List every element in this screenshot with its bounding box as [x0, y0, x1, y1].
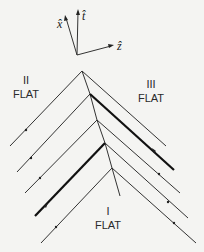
region-2-label: FLAT: [13, 88, 39, 100]
wavefront-4-right: [105, 143, 188, 218]
direction-markers: [25, 129, 175, 228]
marker-icon: [39, 177, 41, 179]
t-axis: [77, 12, 78, 55]
x-axis-label: x̂: [56, 17, 63, 31]
x-axis: [66, 18, 77, 55]
x-arrowhead-icon: [64, 15, 68, 21]
wavefront-3: [25, 120, 180, 193]
z-axis-label: ẑ: [116, 39, 122, 53]
region-1-label: FLAT: [95, 219, 121, 231]
region-3-label: FLAT: [138, 92, 164, 104]
region-2-numeral: II: [23, 74, 29, 86]
region-1-numeral: I: [106, 205, 109, 217]
marker-icon: [167, 201, 169, 203]
marker-icon: [25, 129, 27, 131]
t-axis-label: t̂: [82, 9, 86, 23]
marker-icon: [173, 222, 175, 224]
region-3-numeral: III: [146, 78, 155, 90]
central-worldline: [82, 71, 120, 196]
wavefront-1: [10, 71, 166, 146]
t-arrowhead-icon: [76, 9, 80, 15]
marker-icon: [55, 226, 57, 228]
wavefront-5: [41, 168, 196, 243]
wavefront-2-left: [17, 94, 90, 172]
wavefront-2-right: [90, 94, 174, 170]
z-axis: [77, 46, 111, 55]
spacetime-diagram: x̂ t̂ ẑ II FLAT III FLAT I FLAT: [0, 0, 204, 252]
axes-triad: x̂ t̂ ẑ: [56, 9, 122, 55]
marker-icon: [158, 173, 160, 175]
z-arrowhead-icon: [108, 44, 114, 48]
marker-icon: [30, 157, 32, 159]
